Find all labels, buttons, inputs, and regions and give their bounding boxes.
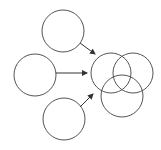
circle-left — [14, 54, 56, 96]
venn-diagram — [91, 53, 153, 117]
circle-venn-left — [91, 53, 131, 93]
circle-venn-bottom — [101, 75, 143, 117]
source-circles — [14, 10, 85, 140]
circle-venn-right — [113, 53, 153, 93]
diagram-canvas — [0, 0, 161, 150]
circle-top — [42, 10, 84, 52]
arrows — [56, 43, 95, 107]
circle-bottom — [43, 98, 85, 140]
arrow-from-bottom-icon — [80, 94, 93, 107]
arrow-from-top-icon — [80, 43, 95, 54]
